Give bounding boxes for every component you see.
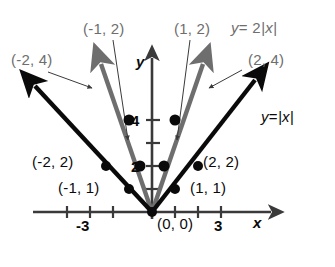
eq-black-y: y xyxy=(261,108,269,125)
eq-black-abs: |x| xyxy=(278,108,294,125)
eq-gray-abs: |x| xyxy=(261,19,277,36)
y-tick-label-4: 4 xyxy=(131,113,139,128)
x-tick-label-3: 3 xyxy=(214,218,222,233)
point-label-neg2-2: (-2, 2) xyxy=(32,154,73,169)
equation-label-2-abs-x: y= 2|x| xyxy=(231,20,277,35)
point-label-1-2: (1, 2) xyxy=(174,21,210,36)
point-label-0-0: (0, 0) xyxy=(157,216,193,231)
eq-gray-eq: = 2 xyxy=(239,19,261,36)
point-label-neg1-2: (-1, 2) xyxy=(83,21,124,36)
y-axis-label: y xyxy=(136,54,144,69)
leader-lines xyxy=(48,40,242,140)
eq-gray-y: y xyxy=(231,19,239,36)
point-label-2-2: (2, 2) xyxy=(203,154,239,169)
point-label-1-1: (1, 1) xyxy=(190,180,226,195)
point-label-2-4: (2, 4) xyxy=(248,52,284,67)
x-axis-label: x xyxy=(253,215,261,230)
point-label-neg2-4: (-2, 4) xyxy=(11,52,52,67)
eq-black-eq: = xyxy=(269,108,278,125)
point-label-neg1-1: (-1, 1) xyxy=(58,180,99,195)
equation-label-abs-x: y=|x| xyxy=(261,109,294,124)
figure-canvas: (-2, 4) (-1, 2) (1, 2) (2, 4) (-2, 2) (-… xyxy=(0,0,335,267)
x-tick-label-neg3: -3 xyxy=(76,218,89,233)
y-tick-label-2: 2 xyxy=(131,159,139,174)
